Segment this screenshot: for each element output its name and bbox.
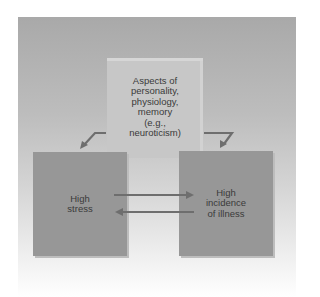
personality-factors-box: Aspects of personality, physiology, memo… bbox=[107, 58, 203, 158]
label-line: stress bbox=[67, 204, 92, 215]
high-stress-box: High stress bbox=[33, 152, 127, 256]
high-stress-label: High stress bbox=[67, 194, 92, 215]
label-line: of illness bbox=[206, 209, 246, 220]
high-illness-label: High incidence of illness bbox=[206, 188, 246, 220]
label-line: memory bbox=[129, 107, 181, 118]
personality-factors-label: Aspects of personality, physiology, memo… bbox=[129, 76, 181, 139]
high-illness-box: High incidence of illness bbox=[179, 151, 273, 256]
label-line: neuroticism) bbox=[129, 128, 181, 139]
label-line: personality, bbox=[129, 86, 181, 97]
